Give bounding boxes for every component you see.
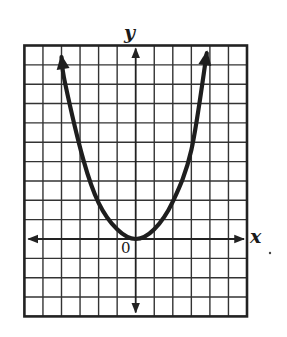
y-axis-label: y [123, 21, 137, 43]
parabola-curve [62, 53, 207, 239]
origin-label: 0 [121, 239, 131, 257]
x-axis-label: x [249, 225, 262, 247]
coordinate-plane: y x 0 [0, 0, 287, 337]
stray-dot [269, 252, 271, 254]
